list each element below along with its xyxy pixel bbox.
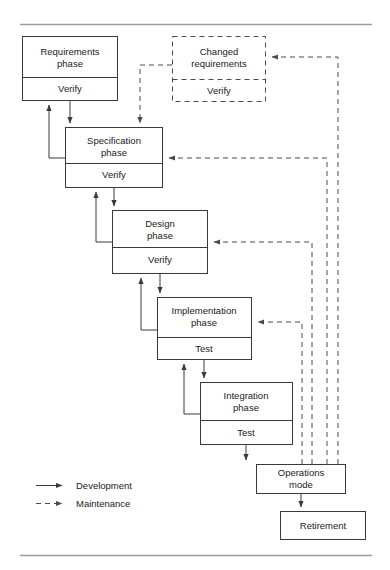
- feedback-integration-to-implementation: [184, 364, 201, 414]
- integration-title-line2: phase: [233, 402, 259, 413]
- requirements-footer: Verify: [58, 83, 82, 94]
- implementation-title-line2: phase: [191, 317, 217, 328]
- operations-title-line2: mode: [289, 479, 313, 490]
- feedback-design-to-specification: [96, 192, 113, 242]
- implementation-title-line1: Implementation: [172, 305, 237, 316]
- feedback-specification-to-requirements: [49, 105, 66, 158]
- retirement-title: Retirement: [300, 520, 347, 531]
- changed-requirements-title-line2: requirements: [191, 58, 247, 69]
- feedback-implementation-to-design: [141, 278, 158, 330]
- requirements-title-line1: Requirements: [40, 46, 99, 57]
- operations-title-line1: Operations: [278, 467, 325, 478]
- legend: Development Maintenance: [36, 480, 132, 509]
- requirements-title-line2: phase: [57, 58, 83, 69]
- box-integration-phase: Integration phase Test: [201, 383, 293, 445]
- box-changed-requirements: Changed requirements Verify: [173, 37, 266, 102]
- legend-maintenance-label: Maintenance: [76, 498, 130, 509]
- design-title-line1: Design: [145, 218, 175, 229]
- diagram-canvas: Requirements phase Verify Changed requir…: [0, 0, 390, 570]
- maintenance-changed-requirements-to-specification: [140, 65, 172, 123]
- specification-footer: Verify: [102, 169, 126, 180]
- specification-title-line1: Specification: [87, 135, 141, 146]
- specification-title-line2: phase: [101, 147, 127, 158]
- integration-title-line1: Integration: [224, 390, 269, 401]
- box-requirements-phase: Requirements phase Verify: [23, 37, 118, 101]
- changed-requirements-footer: Verify: [207, 85, 231, 96]
- waterfall-model-diagram: Requirements phase Verify Changed requir…: [0, 0, 390, 570]
- design-footer: Verify: [148, 254, 172, 265]
- changed-requirements-title-line1: Changed: [200, 46, 239, 57]
- box-implementation-phase: Implementation phase Test: [158, 298, 252, 360]
- box-operations-mode: Operations mode: [257, 465, 346, 494]
- implementation-footer: Test: [195, 343, 213, 354]
- box-design-phase: Design phase Verify: [113, 211, 208, 274]
- integration-footer: Test: [237, 427, 255, 438]
- design-title-line2: phase: [147, 230, 173, 241]
- box-retirement: Retirement: [281, 512, 366, 540]
- box-specification-phase: Specification phase Verify: [66, 128, 163, 188]
- legend-development-label: Development: [76, 480, 132, 491]
